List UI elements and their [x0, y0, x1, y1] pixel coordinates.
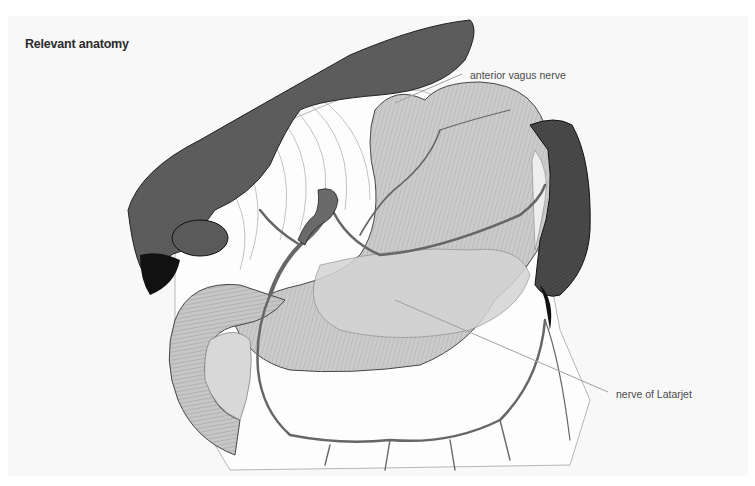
label-anterior-vagus-nerve: anterior vagus nerve	[470, 69, 566, 81]
liver-shadow	[140, 253, 180, 295]
anatomy-illustration	[0, 0, 755, 486]
label-nerve-of-latarjet: nerve of Latarjet	[616, 388, 692, 400]
gallbladder	[172, 220, 228, 256]
